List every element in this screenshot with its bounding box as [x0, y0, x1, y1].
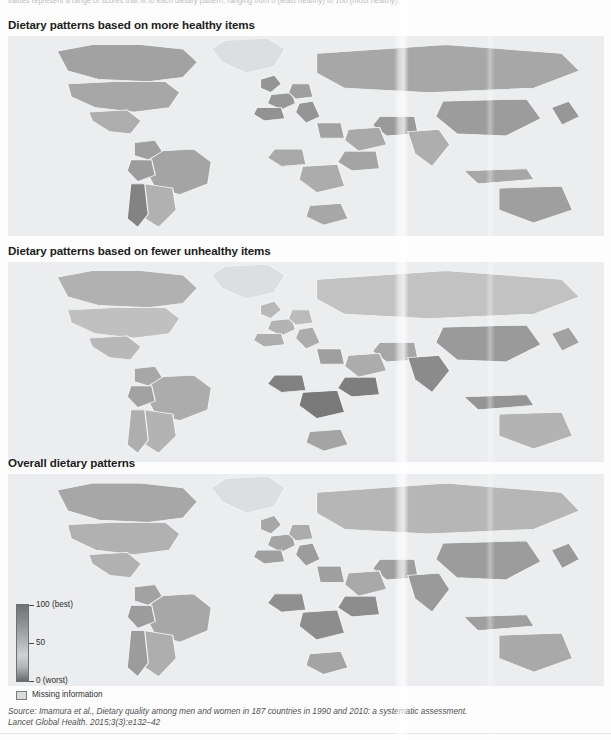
country-spain[interactable] — [253, 550, 285, 564]
country-chile[interactable] — [127, 410, 148, 453]
intro-note: values represent a range of scores that … — [8, 0, 608, 5]
figure-page: values represent a range of scores that … — [0, 0, 611, 740]
legend-tick-100 — [29, 605, 34, 606]
country-greenland[interactable] — [211, 476, 285, 513]
country-india[interactable] — [408, 355, 450, 392]
country-united-kingdom[interactable] — [260, 301, 281, 318]
country-egypt[interactable] — [317, 349, 345, 364]
map-more-healthy[interactable] — [8, 36, 604, 236]
country-nigeria[interactable] — [267, 594, 306, 612]
map-fewer-unhealthy[interactable] — [8, 262, 604, 462]
country-chile[interactable] — [127, 184, 148, 227]
source-line-1: Source: Imamura et al., Dietary quality … — [8, 706, 606, 718]
country-russia[interactable] — [317, 45, 580, 93]
country-india[interactable] — [408, 573, 450, 612]
country-egypt[interactable] — [317, 123, 345, 138]
map-canvas — [8, 474, 604, 686]
country-saudi-arabia[interactable] — [345, 571, 387, 596]
country-spain[interactable] — [253, 334, 285, 347]
legend-tick-0 — [29, 681, 34, 682]
country-china[interactable] — [436, 325, 541, 362]
country-china[interactable] — [436, 541, 541, 580]
world-map-svg — [8, 262, 604, 462]
country-japan[interactable] — [551, 101, 579, 125]
country-saudi-arabia[interactable] — [345, 127, 387, 151]
country-china[interactable] — [436, 99, 541, 136]
country-ethiopia[interactable] — [338, 151, 380, 171]
world-map-svg — [8, 474, 604, 686]
country-south-africa[interactable] — [306, 651, 348, 674]
country-south-africa[interactable] — [306, 429, 348, 451]
map-canvas — [8, 262, 604, 462]
legend-tick-50 — [29, 643, 34, 644]
country-chile[interactable] — [127, 631, 148, 677]
missing-information-label: Missing information — [32, 690, 103, 699]
country-canada[interactable] — [57, 483, 197, 522]
country-australia[interactable] — [499, 186, 573, 223]
country-italy[interactable] — [295, 101, 320, 123]
country-indonesia[interactable] — [464, 615, 534, 631]
country-italy[interactable] — [295, 327, 320, 349]
country-japan[interactable] — [551, 327, 579, 351]
panel-title-more-healthy: Dietary patterns based on more healthy i… — [8, 18, 255, 31]
country-democratic-republic-of-the-congo[interactable] — [299, 610, 345, 640]
map-overall[interactable] — [8, 474, 604, 686]
country-australia[interactable] — [499, 412, 573, 449]
country-ethiopia[interactable] — [338, 596, 380, 617]
panel-title-fewer-unhealthy: Dietary patterns based on fewer unhealth… — [8, 244, 271, 257]
country-japan[interactable] — [551, 543, 579, 568]
country-spain[interactable] — [253, 108, 285, 121]
country-democratic-republic-of-the-congo[interactable] — [299, 390, 345, 418]
world-map-svg — [8, 36, 604, 236]
missing-information-swatch — [16, 691, 27, 700]
country-nigeria[interactable] — [267, 149, 306, 166]
legend-tick-label-100: 100 (best) — [36, 600, 73, 609]
country-indonesia[interactable] — [464, 169, 534, 184]
legend-tick-label-0: 0 (worst) — [36, 676, 68, 685]
country-democratic-republic-of-the-congo[interactable] — [299, 164, 345, 192]
country-united-states[interactable] — [68, 522, 180, 554]
legend-tick-label-50: 50 — [36, 638, 45, 647]
country-greenland[interactable] — [211, 264, 285, 299]
source-line-2: Lancet Global Health. 2015;3(3):e132–42 — [8, 717, 606, 729]
country-egypt[interactable] — [317, 566, 345, 582]
country-greenland[interactable] — [211, 38, 285, 73]
country-south-africa[interactable] — [306, 203, 348, 225]
country-nigeria[interactable] — [267, 375, 306, 392]
country-indonesia[interactable] — [464, 395, 534, 410]
country-india[interactable] — [408, 129, 450, 166]
bottom-divider — [0, 733, 611, 734]
legend-colorbar — [16, 604, 29, 682]
country-canada[interactable] — [57, 45, 197, 82]
country-united-kingdom[interactable] — [260, 515, 281, 533]
country-mexico[interactable] — [89, 552, 142, 577]
country-russia[interactable] — [317, 483, 580, 534]
panel-title-overall: Overall dietary patterns — [8, 456, 135, 469]
country-saudi-arabia[interactable] — [345, 353, 387, 377]
country-australia[interactable] — [499, 633, 573, 672]
country-united-states[interactable] — [68, 308, 180, 338]
map-canvas — [8, 36, 604, 236]
country-italy[interactable] — [295, 543, 320, 566]
country-united-states[interactable] — [68, 82, 180, 112]
country-united-kingdom[interactable] — [260, 75, 281, 92]
country-ethiopia[interactable] — [338, 377, 380, 397]
country-mexico[interactable] — [89, 110, 142, 134]
country-canada[interactable] — [57, 271, 197, 308]
country-russia[interactable] — [317, 271, 580, 319]
country-mexico[interactable] — [89, 336, 142, 360]
